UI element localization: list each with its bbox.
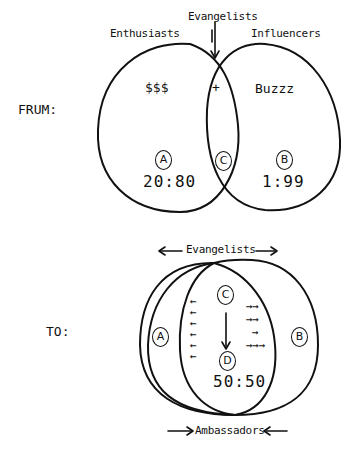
buzz-text: Buzzz — [255, 81, 294, 96]
evangelists-top-label: Evangelists — [186, 243, 256, 256]
to-tag-a: A — [152, 327, 169, 347]
left-arrows-group: ← ← ← ← ← ← — [190, 296, 196, 362]
tag-a: A — [155, 150, 172, 170]
tag-b: B — [276, 150, 293, 170]
influencers-title: Influencers — [251, 27, 321, 40]
money-symbols: $$$ — [145, 80, 168, 95]
to-tag-c: C — [217, 285, 234, 305]
to-label: TO: — [46, 324, 69, 339]
tag-c: C — [215, 151, 232, 171]
left-arrow: ← — [190, 351, 196, 362]
right-arrow: → — [246, 326, 265, 339]
diagram-canvas — [0, 0, 353, 452]
plus-sign: + — [212, 80, 220, 95]
evangelists-title: Evangelists — [188, 10, 258, 23]
ratio-b: 1:99 — [262, 172, 305, 191]
to-tag-d: D — [219, 351, 236, 371]
right-arrow: →→ — [246, 313, 265, 326]
right-arrow: →→ — [246, 300, 265, 313]
to-tag-b: B — [291, 327, 308, 347]
enthusiasts-title: Enthusiasts — [110, 27, 180, 40]
ratio-a: 20:80 — [143, 172, 196, 191]
right-arrow: →→→ — [246, 339, 265, 352]
ambassadors-label: Ambassadors — [195, 424, 265, 437]
from-label: FRUM: — [18, 102, 57, 117]
center-ratio: 50:50 — [213, 372, 266, 391]
right-arrows-group: →→ →→ → →→→ — [246, 300, 265, 352]
